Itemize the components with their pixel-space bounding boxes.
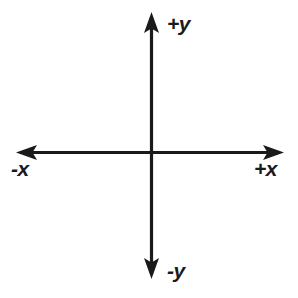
axis-label-positive-x: +x: [254, 158, 277, 179]
axis-label-negative-y: -y: [167, 260, 185, 281]
axes-drawing: [0, 0, 298, 298]
axis-label-positive-y: +y: [167, 13, 190, 34]
coordinate-axes-diagram: +y -y -x +x: [0, 0, 298, 298]
axis-label-negative-x: -x: [11, 158, 29, 179]
